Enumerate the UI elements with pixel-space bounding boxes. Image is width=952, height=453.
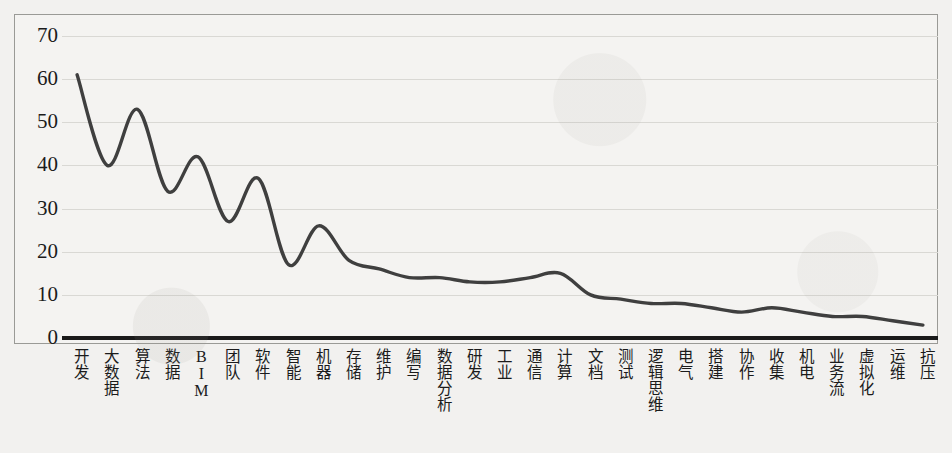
x-axis: 开发大数据算法数据BIM团队软件智能机器存储维护编写数据分析研发工业通信计算文档… xyxy=(62,348,938,453)
x-tick-label: 团队 xyxy=(217,348,239,380)
y-tick-label: 30 xyxy=(18,198,58,219)
x-tick-label: 虚拟化 xyxy=(851,348,873,396)
y-tick-label: 60 xyxy=(18,68,58,89)
x-tick-label: 业务流 xyxy=(821,348,843,396)
data-series-line xyxy=(62,14,938,344)
y-tick-label: 50 xyxy=(18,111,58,132)
x-axis-baseline xyxy=(62,336,938,340)
x-tick-label: 智能 xyxy=(278,348,300,380)
x-tick-label: 运维 xyxy=(882,348,904,380)
x-tick-label: 维护 xyxy=(368,348,390,380)
x-tick-label: 文档 xyxy=(580,348,602,380)
y-tick-label: 0 xyxy=(18,327,58,348)
x-tick-label: 存储 xyxy=(338,348,360,380)
x-tick-label: 收集 xyxy=(761,348,783,380)
y-tick-label: 20 xyxy=(18,241,58,262)
x-tick-label: 协作 xyxy=(731,348,753,380)
x-tick-label: 机电 xyxy=(791,348,813,380)
x-tick-label: 研发 xyxy=(459,348,481,380)
x-tick-label: 算法 xyxy=(127,348,149,380)
x-tick-label: BIM xyxy=(187,348,209,399)
x-tick-label: 逻辑思维 xyxy=(640,348,662,412)
x-tick-label: 软件 xyxy=(247,348,269,380)
line-chart: 706050403020100 开发大数据算法数据BIM团队软件智能机器存储维护… xyxy=(0,0,952,453)
x-tick-label: 数据分析 xyxy=(429,348,451,412)
series-path xyxy=(77,75,923,325)
x-tick-label: 数据 xyxy=(157,348,179,380)
y-tick-label: 40 xyxy=(18,154,58,175)
x-tick-label: 抗压 xyxy=(912,348,934,380)
x-tick-label: 搭建 xyxy=(700,348,722,380)
y-tick-label: 10 xyxy=(18,284,58,305)
plot-area xyxy=(62,14,938,344)
x-tick-label: 通信 xyxy=(519,348,541,380)
y-tick-label: 70 xyxy=(18,25,58,46)
y-axis: 706050403020100 xyxy=(0,14,58,344)
x-tick-label: 测试 xyxy=(610,348,632,380)
x-tick-label: 计算 xyxy=(549,348,571,380)
x-tick-label: 电气 xyxy=(670,348,692,380)
x-tick-label: 编写 xyxy=(398,348,420,380)
x-tick-label: 机器 xyxy=(308,348,330,380)
x-tick-label: 工业 xyxy=(489,348,511,380)
x-tick-label: 开发 xyxy=(66,348,88,380)
x-tick-label: 大数据 xyxy=(96,348,118,396)
